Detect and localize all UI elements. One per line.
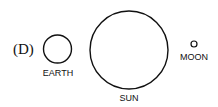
moon-circle (191, 41, 197, 47)
sun-label: SUN (119, 93, 138, 103)
earth-label: EARTH (43, 68, 73, 78)
diagram-canvas: (D) EARTH SUN MOON (0, 0, 218, 107)
earth-circle (44, 35, 72, 63)
moon-label: MOON (180, 52, 208, 62)
sun-circle (90, 11, 168, 89)
option-label: (D) (13, 41, 34, 58)
